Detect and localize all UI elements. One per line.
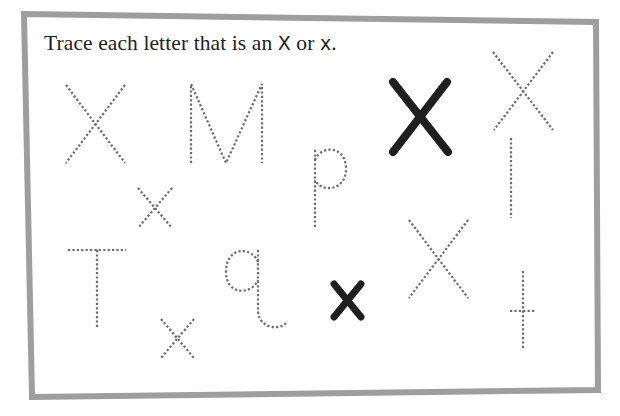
letter-X-dotted-3[interactable] <box>409 220 468 298</box>
letter-x-dotted-2[interactable] <box>161 319 194 358</box>
letter-x-dotted-1[interactable] <box>138 188 172 228</box>
letter-p-dotted[interactable] <box>315 150 346 229</box>
letter-T-dotted[interactable] <box>68 250 126 329</box>
letter-q-dotted[interactable] <box>226 250 287 327</box>
letter-M-dotted[interactable] <box>191 84 262 163</box>
letter-X-traced[interactable] <box>393 82 448 152</box>
letters-area <box>0 0 620 416</box>
letter-t-dotted[interactable] <box>510 271 536 350</box>
letter-X-dotted-1[interactable] <box>66 85 125 163</box>
letter-x-traced[interactable] <box>334 284 361 317</box>
letter-X-dotted-2[interactable] <box>493 52 553 130</box>
